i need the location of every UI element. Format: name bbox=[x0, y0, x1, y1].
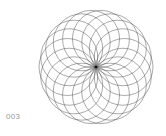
rosette-drawing bbox=[0, 0, 166, 136]
figure-number-label: 003 bbox=[6, 112, 20, 121]
center-dot bbox=[95, 66, 98, 69]
